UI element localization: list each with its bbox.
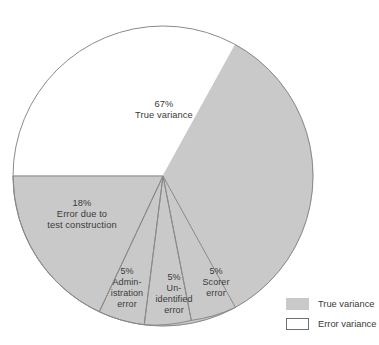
- slice-label-scorer-error: 5% Scorer error: [194, 266, 238, 299]
- slice-percent: 5%: [150, 272, 198, 283]
- legend-label: Error variance: [318, 319, 376, 329]
- slice-name-line1: True variance: [121, 110, 207, 121]
- legend-item-true-variance: True variance: [286, 295, 378, 312]
- slice-name-line2: istration: [103, 288, 151, 299]
- slice-percent: 5%: [103, 266, 151, 277]
- slice-label-test-construction: 18% Error due to test construction: [22, 198, 142, 231]
- pie-chart-figure: 67% True variance 18% Error due to test …: [0, 0, 379, 345]
- legend-label: True variance: [318, 299, 375, 309]
- slice-label-administration-error: 5% Admin- istration error: [103, 266, 151, 310]
- slice-name-line2: error: [194, 288, 238, 299]
- slice-name-line2: identified: [150, 294, 198, 305]
- legend-swatch-white-icon: [286, 318, 309, 330]
- legend-item-error-variance: Error variance: [286, 315, 378, 332]
- slice-percent: 67%: [121, 99, 207, 110]
- chart-legend: True variance Error variance: [286, 295, 378, 335]
- slice-percent: 18%: [22, 198, 142, 209]
- legend-swatch-gray-icon: [286, 298, 309, 310]
- slice-name-line1: Admin-: [103, 277, 151, 288]
- slice-label-unidentified-error: 5% Un- identified error: [150, 272, 198, 316]
- slice-name-line1: Un-: [150, 283, 198, 294]
- slice-percent: 5%: [194, 266, 238, 277]
- slice-name-line3: error: [103, 299, 151, 310]
- slice-name-line1: Error due to: [22, 209, 142, 220]
- slice-name-line2: test construction: [22, 220, 142, 231]
- slice-name-line1: Scorer: [194, 277, 238, 288]
- slice-label-true-variance: 67% True variance: [121, 99, 207, 121]
- slice-name-line3: error: [150, 305, 198, 316]
